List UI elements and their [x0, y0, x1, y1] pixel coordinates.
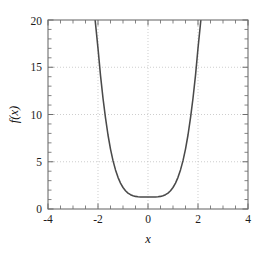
x-tick-label--2: -2	[93, 213, 103, 225]
y-tick-labels: 0 5 10 15 20	[31, 15, 43, 216]
x-tick-label-0: 0	[145, 213, 151, 225]
y-tick-label-10: 10	[31, 109, 43, 121]
y-tick-label-0: 0	[36, 203, 42, 215]
y-tick-label-20: 20	[31, 15, 43, 27]
x-tick-label--4: -4	[43, 213, 53, 225]
x-tick-labels: -4 -2 0 2 4	[43, 213, 251, 225]
chart-page: 0 5 10 15 20 -4 -2 0 2 4 x f(x)	[0, 0, 266, 256]
y-axis-title: f(x)	[7, 106, 21, 123]
function-plot-figure: 0 5 10 15 20 -4 -2 0 2 4 x f(x)	[0, 0, 266, 256]
x-axis-title: x	[144, 232, 151, 246]
y-tick-label-5: 5	[36, 156, 42, 168]
y-tick-label-15: 15	[31, 61, 43, 73]
x-tick-label-4: 4	[245, 213, 251, 225]
x-tick-label-2: 2	[195, 213, 201, 225]
